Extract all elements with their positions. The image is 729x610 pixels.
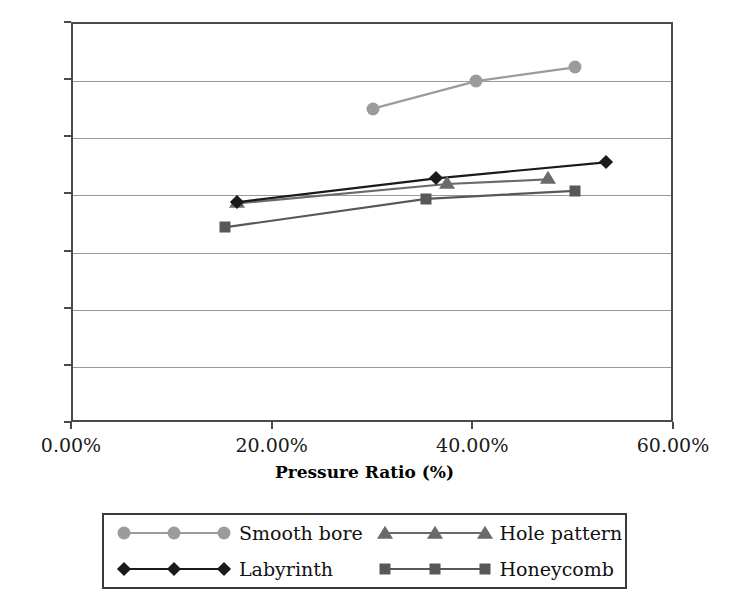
y-tick-mark bbox=[64, 78, 71, 80]
y-tick-mark bbox=[64, 364, 71, 366]
legend-entry-hole-pattern[interactable]: Hole pattern bbox=[365, 522, 626, 544]
legend-label: Smooth bore bbox=[239, 522, 363, 544]
marker-circle-icon bbox=[218, 527, 231, 540]
legend-label: Hole pattern bbox=[500, 522, 623, 544]
marker-square-icon bbox=[569, 185, 580, 196]
marker-triangle-icon bbox=[377, 526, 393, 539]
marker-diamond-icon bbox=[217, 562, 231, 576]
legend-entry-smooth-bore[interactable]: Smooth bore bbox=[104, 522, 365, 544]
legend-sample bbox=[379, 523, 491, 543]
legend-sample bbox=[379, 559, 491, 579]
x-tick-mark bbox=[471, 422, 473, 429]
chart-legend: Smooth boreHole patternLabyrinthHoneycom… bbox=[102, 513, 627, 589]
y-tick-mark bbox=[64, 21, 71, 23]
marker-circle-icon bbox=[568, 61, 581, 74]
marker-square-icon bbox=[421, 193, 432, 204]
marker-square-icon bbox=[429, 564, 440, 575]
marker-square-icon bbox=[379, 564, 390, 575]
series-lines bbox=[73, 24, 675, 424]
x-tick-label: 60.00% bbox=[613, 436, 729, 455]
x-tick-label: 0.00% bbox=[11, 436, 131, 455]
chart-figure: 00.050.10.150.20.250.30.35 0.00%20.00%40… bbox=[0, 0, 729, 610]
marker-diamond-icon bbox=[167, 562, 181, 576]
y-tick-mark bbox=[64, 192, 71, 194]
x-axis-title: Pressure Ratio (%) bbox=[0, 462, 729, 482]
legend-grid: Smooth boreHole patternLabyrinthHoneycom… bbox=[104, 515, 625, 587]
marker-circle-icon bbox=[470, 75, 483, 88]
legend-sample bbox=[118, 523, 230, 543]
y-tick-mark bbox=[64, 135, 71, 137]
marker-square-icon bbox=[219, 222, 230, 233]
marker-triangle-icon bbox=[427, 526, 443, 539]
chart-plot-area: 00.050.10.150.20.250.30.35 0.00%20.00%40… bbox=[0, 0, 729, 500]
marker-circle-icon bbox=[366, 102, 379, 115]
marker-triangle-icon bbox=[540, 171, 556, 184]
series-line bbox=[373, 67, 575, 108]
plot-frame bbox=[71, 22, 673, 422]
legend-label: Labyrinth bbox=[239, 558, 333, 580]
legend-sample bbox=[118, 559, 230, 579]
legend-entry-honeycomb[interactable]: Honeycomb bbox=[365, 558, 626, 580]
marker-square-icon bbox=[479, 564, 490, 575]
x-tick-mark bbox=[271, 422, 273, 429]
x-tick-mark bbox=[70, 422, 72, 429]
y-tick-mark bbox=[64, 307, 71, 309]
legend-label: Honeycomb bbox=[500, 558, 614, 580]
x-tick-label: 40.00% bbox=[412, 436, 532, 455]
legend-entry-labyrinth[interactable]: Labyrinth bbox=[104, 558, 365, 580]
y-tick-mark bbox=[64, 250, 71, 252]
x-tick-label: 20.00% bbox=[212, 436, 332, 455]
marker-circle-icon bbox=[168, 527, 181, 540]
marker-triangle-icon bbox=[477, 526, 493, 539]
marker-diamond-icon bbox=[117, 562, 131, 576]
x-tick-mark bbox=[672, 422, 674, 429]
marker-circle-icon bbox=[118, 527, 131, 540]
